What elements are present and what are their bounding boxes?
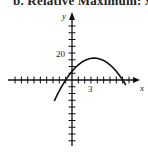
y-axis <box>69 12 76 146</box>
y-axis-arrow-icon <box>69 12 75 20</box>
y-tick-label-20: 20 <box>56 49 66 59</box>
x-axis-label: x <box>139 83 144 93</box>
x-axis-arrow-icon <box>133 77 140 83</box>
x-tick-label-3: 3 <box>88 84 93 94</box>
graph: y x 3 20 <box>0 0 148 152</box>
y-axis-label: y <box>61 11 66 21</box>
